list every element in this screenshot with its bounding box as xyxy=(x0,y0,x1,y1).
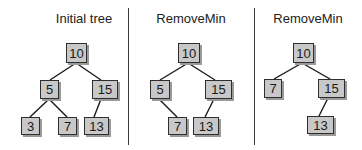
edge-5-7 xyxy=(159,99,177,117)
edge-5-7 xyxy=(49,99,67,117)
tree-node-7: 7 xyxy=(264,79,282,98)
tree-node-10: 10 xyxy=(293,43,314,63)
tree-node-13: 13 xyxy=(193,117,219,135)
tree-node-10: 10 xyxy=(66,43,87,63)
tree-node-13: 13 xyxy=(84,117,109,135)
tree-node-5: 5 xyxy=(150,80,170,99)
edge-10-5 xyxy=(160,63,188,80)
edge-15-13 xyxy=(205,99,214,117)
edge-15-13 xyxy=(94,99,101,117)
edge-5-3 xyxy=(30,99,49,117)
tree-node-13: 13 xyxy=(307,116,334,134)
edge-10-7 xyxy=(274,63,302,79)
tree-node-15: 15 xyxy=(92,80,118,99)
edge-10-15 xyxy=(76,63,101,80)
tree-node-15: 15 xyxy=(318,79,345,98)
tree-node-15: 15 xyxy=(205,80,232,99)
tree-node-7: 7 xyxy=(168,117,187,135)
edge-10-15 xyxy=(302,63,330,79)
tree-node-10: 10 xyxy=(178,43,200,63)
tree-node-3: 3 xyxy=(21,117,40,135)
edge-10-15 xyxy=(188,63,215,80)
tree-node-5: 5 xyxy=(40,80,59,99)
tree-removemin-diagram: Initial tree RemoveMin RemoveMin 10 5 15… xyxy=(0,0,362,150)
edge-15-13 xyxy=(319,98,328,116)
tree-node-7: 7 xyxy=(58,117,77,135)
edge-10-5 xyxy=(50,63,76,80)
